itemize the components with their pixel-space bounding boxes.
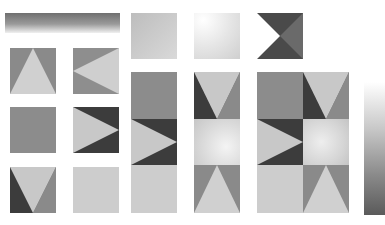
flat-lighter-tile (257, 165, 303, 213)
arrow-right-dark-tile (131, 119, 177, 165)
arrow-up-tile (194, 165, 240, 213)
arrow-down-icon (194, 72, 240, 119)
arrow-right-icon (73, 107, 119, 153)
arrow-up-tile (303, 165, 349, 213)
arrow-up-icon (10, 48, 56, 94)
arrow-left-tile (73, 48, 119, 94)
arrow-right-icon (131, 119, 177, 165)
dark-notch-tile (257, 13, 303, 59)
radial-light-tile (194, 119, 240, 165)
flat-mid-tile (257, 72, 303, 119)
radial-light-tile (303, 119, 349, 165)
flat-mid-tile (10, 107, 56, 153)
notch-arrow-icon (257, 13, 303, 59)
header-gradient-bar (5, 13, 120, 33)
arrow-right-dark-tile (257, 119, 303, 165)
arrow-down-dark-tile (303, 72, 349, 119)
arrow-right-dark-tile (73, 107, 119, 153)
arrow-down-dark-tile (194, 72, 240, 119)
flat-light-tile (131, 13, 177, 59)
flat-lighter-tile (131, 165, 177, 213)
flat-lighter-tile (73, 167, 119, 213)
arrow-up-icon (303, 165, 349, 213)
arrow-right-icon (257, 119, 303, 165)
arrow-left-icon (73, 48, 119, 94)
arrow-down-icon (10, 167, 56, 213)
flat-mid-tile (131, 72, 177, 119)
arrow-up-icon (194, 165, 240, 213)
arrow-down-dark-tile (10, 167, 56, 213)
radial-light-tile (194, 13, 240, 59)
arrow-down-icon (303, 72, 349, 119)
vertical-gradient-bar (364, 82, 385, 215)
arrow-up-tile (10, 48, 56, 94)
